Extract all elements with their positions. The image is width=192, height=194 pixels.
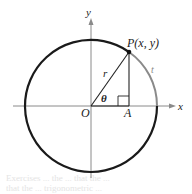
point-A-label: A [123,106,132,120]
bleed-text-2: that the ... trigonometric ... [6,183,102,193]
bleed-text-1: Exercises ... the ... that the ... [6,173,110,183]
arc-t-label: t [151,64,154,75]
point-P [127,50,132,55]
origin-label: O [81,106,90,120]
arc-t [129,52,157,106]
point-P-label: P(x, y) [126,36,159,50]
right-angle-marker [118,96,129,106]
radius-line [91,52,129,106]
radius-label: r [103,67,108,79]
unit-circle-diagram: Exercises ... the ... that the ... that … [0,0,192,194]
y-axis-arrow-icon [89,18,94,25]
x-axis-arrow-icon [169,104,176,109]
x-axis-label: x [177,100,183,112]
y-axis-label: y [85,6,91,18]
angle-label: θ [101,92,107,104]
